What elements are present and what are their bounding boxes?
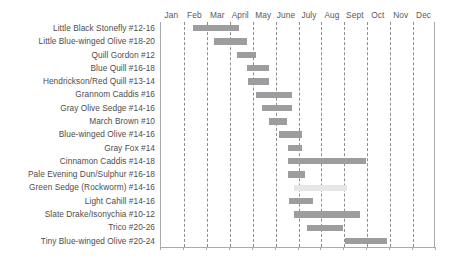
hatch-bar: [248, 78, 269, 84]
species-label: Little Blue-winged Olive #18-20: [0, 35, 158, 48]
hatch-row: [161, 22, 434, 35]
hatch-bar: [288, 158, 366, 164]
hatch-row: [161, 195, 434, 208]
hatch-bar: [288, 145, 302, 151]
hatch-bar: [289, 198, 313, 204]
hatch-row: [161, 62, 434, 75]
species-label: Quill Gordon #12: [0, 49, 158, 62]
hatch-row: [161, 115, 434, 128]
hatch-bar: [345, 238, 386, 244]
hatch-bar: [288, 171, 305, 177]
hatch-bar: [307, 225, 344, 231]
species-label: Blue-winged Olive #14-16: [0, 128, 158, 141]
hatch-bar: [269, 118, 287, 124]
axis-tick: [343, 247, 344, 250]
month-header-sept: Sept: [343, 9, 366, 22]
species-label: Cinnamon Caddis #14-18: [0, 155, 158, 168]
axis-tick: [298, 247, 299, 250]
month-header-mar: Mar: [206, 9, 229, 22]
hatch-row: [161, 235, 434, 248]
axis-tick: [183, 247, 184, 250]
axis-tick: [389, 247, 390, 250]
axis-tick: [275, 247, 276, 250]
species-label: March Brown #10: [0, 115, 158, 128]
hatch-bar: [247, 65, 269, 71]
species-label: Trico #20-26: [0, 221, 158, 234]
month-header-oct: Oct: [366, 9, 389, 22]
month-header-jan: Jan: [160, 9, 183, 22]
species-label: Green Sedge (Rockworm) #14-16: [0, 181, 158, 194]
month-header-may: May: [252, 9, 275, 22]
species-label: Grannom Caddis #16: [0, 88, 158, 101]
hatch-row: [161, 221, 434, 234]
hatch-row: [161, 142, 434, 155]
species-label: Little Black Stonefly #12-16: [0, 22, 158, 35]
month-header-nov: Nov: [389, 9, 412, 22]
species-label: Hendrickson/Red Quill #13-14: [0, 75, 158, 88]
hatch-row: [161, 155, 434, 168]
month-header-feb: Feb: [183, 9, 206, 22]
month-header-aug: Aug: [320, 9, 343, 22]
hatch-row: [161, 35, 434, 48]
species-label: Tiny Blue-winged Olive #20-24: [0, 235, 158, 248]
hatch-bar: [193, 25, 239, 31]
axis-tick: [229, 247, 230, 250]
hatch-bar: [237, 52, 256, 58]
hatch-row: [161, 75, 434, 88]
axis-tick: [320, 247, 321, 250]
hatch-row: [161, 128, 434, 141]
axis-tick: [435, 247, 436, 250]
chart-plot-area: [160, 22, 435, 248]
hatch-bar: [294, 185, 347, 191]
month-header-dec: Dec: [412, 9, 435, 22]
axis-tick: [366, 247, 367, 250]
species-label: Slate Drake/Isonychia #10-12: [0, 208, 158, 221]
species-label: Blue Quill #16-18: [0, 62, 158, 75]
hatch-chart: JanFebMarAprilMayJuneJulyAugSeptOctNovDe…: [0, 0, 462, 265]
month-axis-header: JanFebMarAprilMayJuneJulyAugSeptOctNovDe…: [160, 9, 435, 22]
axis-tick: [160, 247, 161, 250]
month-header-april: April: [229, 9, 252, 22]
hatch-row: [161, 49, 434, 62]
hatch-row: [161, 182, 434, 195]
hatch-bar: [256, 92, 292, 98]
axis-tick: [206, 247, 207, 250]
hatch-bar: [214, 38, 247, 44]
species-label: Gray Fox #14: [0, 142, 158, 155]
species-label: Pale Evening Dun/Sulphur #16-18: [0, 168, 158, 181]
species-label: Light Cahill #14-16: [0, 195, 158, 208]
species-label-column: Little Black Stonefly #12-16Little Blue-…: [0, 22, 158, 248]
month-header-july: July: [298, 9, 321, 22]
hatch-bar: [262, 105, 292, 111]
hatch-row: [161, 88, 434, 101]
species-label: Gray Olive Sedge #14-16: [0, 102, 158, 115]
hatch-row: [161, 208, 434, 221]
hatch-row: [161, 168, 434, 181]
axis-baseline-ticks: [160, 247, 435, 252]
axis-tick: [252, 247, 253, 250]
month-header-june: June: [275, 9, 298, 22]
hatch-row: [161, 102, 434, 115]
hatch-bar: [279, 131, 302, 137]
axis-tick: [412, 247, 413, 250]
hatch-bar: [294, 211, 360, 217]
